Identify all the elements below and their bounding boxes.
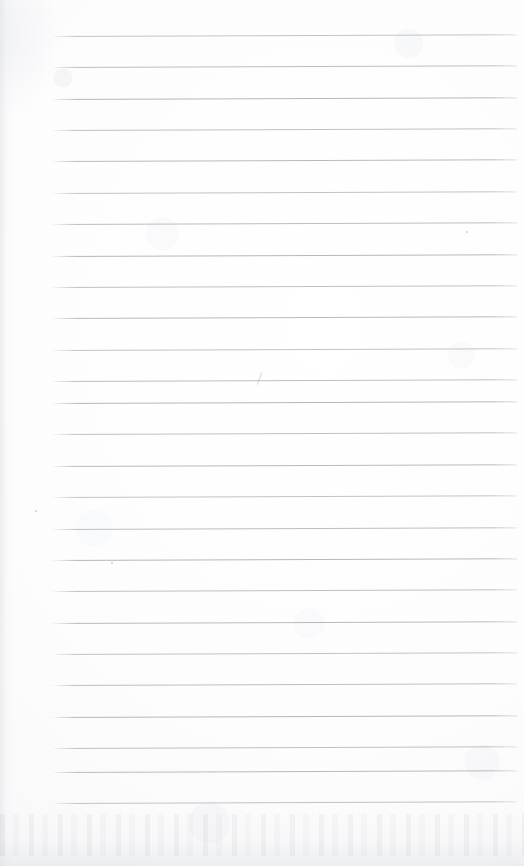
ruled-line — [51, 558, 517, 561]
ruled-line — [51, 770, 517, 773]
ruled-line — [51, 464, 517, 467]
ruled-line — [51, 495, 517, 498]
ruled-line — [51, 652, 517, 655]
ruled-line — [51, 683, 517, 686]
ruled-lines-group — [0, 0, 524, 866]
ruled-line — [51, 401, 517, 404]
ruled-line — [51, 589, 517, 592]
ruled-line — [51, 222, 517, 225]
ruled-line — [51, 254, 517, 257]
ruled-line — [51, 97, 517, 100]
scanned-page — [0, 0, 524, 866]
ruled-line — [51, 348, 517, 351]
ruled-line — [51, 746, 517, 749]
ruled-line — [51, 191, 517, 194]
ruled-line — [51, 801, 517, 804]
ruled-line — [51, 34, 517, 37]
ruled-line — [51, 715, 517, 718]
ruled-line — [51, 527, 517, 530]
ruled-line — [51, 159, 517, 162]
ruled-line — [51, 621, 517, 624]
ruled-line — [51, 379, 517, 382]
ruled-line — [51, 128, 517, 131]
ruled-line — [51, 285, 517, 288]
ruled-line — [51, 316, 517, 319]
ruled-line — [51, 65, 517, 68]
ruled-line — [51, 432, 517, 435]
